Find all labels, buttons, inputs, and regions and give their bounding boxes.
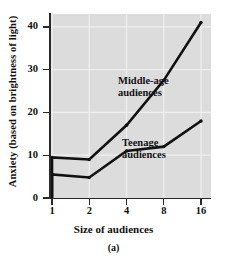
y-tick-label: 40: [16, 21, 38, 31]
x-tick-label: 16: [189, 206, 213, 216]
data-point: [125, 124, 128, 127]
y-tick-mark: [43, 112, 50, 113]
y-tick-label: 30: [16, 64, 38, 74]
x-axis-title: Size of audiences: [0, 223, 227, 235]
x-tick-mark: [126, 198, 127, 205]
plot-area: [50, 14, 211, 198]
x-axis-line: [49, 198, 211, 200]
data-point: [199, 21, 202, 24]
data-point: [50, 173, 53, 176]
x-tick-mark: [51, 198, 52, 205]
x-tick-label: 1: [40, 206, 64, 216]
gridlines: [50, 14, 211, 198]
data-point: [199, 119, 202, 122]
y-axis-title: Anxiety (based on brightness of light): [7, 2, 18, 202]
figure-caption: (a): [0, 242, 227, 253]
x-tick-mark: [89, 198, 90, 205]
data-point: [88, 176, 91, 179]
series-label-middle-age: Middle-age audiences: [118, 75, 169, 98]
data-point: [88, 158, 91, 161]
y-tick-label: 10: [16, 150, 38, 160]
y-tick-mark: [43, 197, 50, 198]
figure-panel-a: Anxiety (based on brightness of light) 0…: [0, 0, 227, 260]
x-tick-label: 4: [115, 206, 139, 216]
y-tick-mark: [43, 155, 50, 156]
plot-svg: [50, 14, 211, 198]
x-tick-label: 2: [77, 206, 101, 216]
x-tick-mark: [200, 198, 201, 205]
y-tick-mark: [43, 69, 50, 70]
y-tick-label: 0: [16, 193, 38, 203]
y-tick-label: 20: [16, 107, 38, 117]
x-tick-mark: [163, 198, 164, 205]
y-axis-line: [49, 13, 51, 199]
data-point: [50, 156, 53, 159]
x-tick-label: 8: [152, 206, 176, 216]
y-tick-mark: [43, 26, 50, 27]
series-label-teenage: Teenage audiences: [122, 137, 166, 160]
